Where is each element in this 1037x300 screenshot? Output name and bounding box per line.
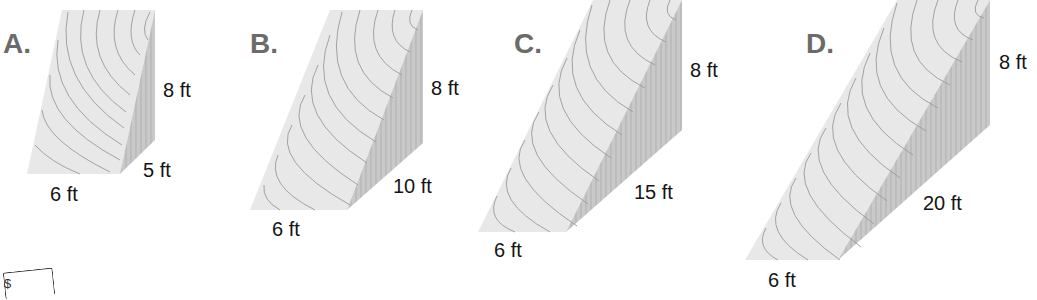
prism-a-length-label: 5 ft — [143, 160, 171, 180]
prism-b-base-label: 6 ft — [272, 219, 300, 239]
prism-b-letter: B. — [250, 30, 278, 58]
prism-c-base-label: 6 ft — [494, 240, 522, 260]
prism-d-letter: D. — [806, 30, 834, 58]
dollar-icon: $ — [4, 276, 11, 291]
prism-a — [27, 10, 155, 174]
prism-d-height-label: 8 ft — [999, 52, 1027, 72]
prism-c-length-label: 15 ft — [634, 182, 673, 202]
prism-b-height-label: 8 ft — [431, 78, 459, 98]
prism-b-length-label: 10 ft — [393, 176, 432, 196]
prism-c-height-label: 8 ft — [690, 60, 718, 80]
prism-d-base-label: 6 ft — [768, 270, 796, 290]
prism-a-base-label: 6 ft — [50, 184, 78, 204]
prism-c-letter: C. — [514, 30, 542, 58]
prism-d — [745, 0, 990, 260]
prism-d-length-label: 20 ft — [923, 193, 962, 213]
prism-a-letter: A. — [3, 30, 31, 58]
prism-a-height-label: 8 ft — [163, 80, 191, 100]
